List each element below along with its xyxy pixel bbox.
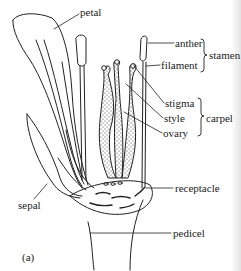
label-carpel: carpel xyxy=(206,113,233,124)
pedicel-shape xyxy=(88,200,143,270)
label-petal: petal xyxy=(80,7,101,18)
label-stamen: stamen xyxy=(209,50,240,61)
flower-diagram: petal anther filament stamen stigma styl… xyxy=(0,0,241,271)
petal-shape xyxy=(13,14,88,188)
label-sepal: sepal xyxy=(18,200,41,211)
right-stamen xyxy=(140,36,147,188)
flower-drawing xyxy=(0,0,241,271)
label-filament: filament xyxy=(161,60,198,71)
side-petals xyxy=(58,130,94,190)
label-ovary: ovary xyxy=(163,128,188,139)
label-pedicel: pedicel xyxy=(173,228,205,239)
label-receptacle: receptacle xyxy=(175,183,220,194)
panel-label: (a) xyxy=(22,252,34,263)
carpels xyxy=(99,60,136,178)
label-anther: anther xyxy=(175,38,202,49)
label-style: style xyxy=(164,113,185,124)
label-stigma: stigma xyxy=(165,98,194,109)
